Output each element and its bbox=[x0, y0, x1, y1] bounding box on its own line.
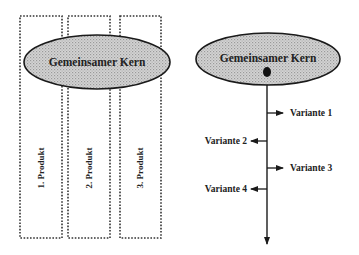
variant-label-1: Variante 1 bbox=[290, 108, 332, 118]
diagram-canvas: 1. Produkt 2. Produkt 3. Produkt Gemeins… bbox=[0, 0, 359, 255]
variant-1: Variante 1 bbox=[267, 108, 332, 118]
origin-dot bbox=[263, 67, 271, 77]
core-ellipse-right: Gemeinsamer Kern bbox=[196, 33, 340, 85]
variant-3: Variante 3 bbox=[267, 163, 332, 173]
right-diagram: Gemeinsamer Kern Variante 1 Variante 2 V… bbox=[196, 33, 340, 244]
left-diagram: 1. Produkt 2. Produkt 3. Produkt Gemeins… bbox=[20, 16, 170, 238]
product-label-2: 2. Produkt bbox=[84, 148, 94, 189]
product-label-1: 1. Produkt bbox=[36, 148, 46, 189]
variant-label-3: Variante 3 bbox=[290, 163, 332, 173]
variant-2: Variante 2 bbox=[205, 136, 267, 146]
core-label-left: Gemeinsamer Kern bbox=[49, 56, 146, 68]
variant-4: Variante 4 bbox=[205, 184, 267, 194]
variant-label-2: Variante 2 bbox=[205, 136, 247, 146]
variant-label-4: Variante 4 bbox=[205, 184, 247, 194]
core-label-right: Gemeinsamer Kern bbox=[220, 52, 317, 64]
core-ellipse-left: Gemeinsamer Kern bbox=[24, 35, 170, 89]
product-label-3: 3. Produkt bbox=[135, 148, 145, 189]
